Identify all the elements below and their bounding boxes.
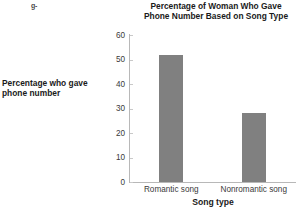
x-axis-line — [129, 182, 296, 183]
y-axis-tick-label: 0 — [100, 178, 125, 187]
x-axis-category-label: Romantic song — [130, 185, 213, 195]
chart-plot-wrapper: 0102030405060 Romantic songNonromantic s… — [0, 0, 304, 213]
y-axis-tick — [130, 182, 133, 183]
y-axis-tick-label: 30 — [100, 104, 125, 113]
x-axis-title: Song type — [130, 197, 296, 207]
x-axis-category-label: Nonromantic song — [213, 185, 296, 195]
y-axis-tick-label: 60 — [100, 31, 125, 40]
bar — [242, 113, 266, 182]
y-axis-tick-label: 20 — [100, 129, 125, 138]
y-axis-tick-label: 10 — [100, 153, 125, 162]
bar — [159, 55, 183, 182]
y-axis-tick-label: 40 — [100, 80, 125, 89]
plot-area — [130, 35, 295, 182]
y-axis-tick-label: 50 — [100, 55, 125, 64]
